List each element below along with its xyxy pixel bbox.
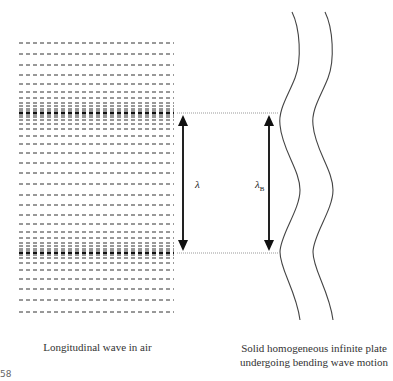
corner-page-number: 58 xyxy=(0,369,11,379)
plate-caption: Solid homogeneous infinite plate undergo… xyxy=(235,341,393,369)
plate-caption-line1: Solid homogeneous infinite plate xyxy=(235,341,393,355)
lambda-label: λ xyxy=(195,178,200,190)
air-caption-text: Longitudinal wave in air xyxy=(43,341,151,353)
lambda-arrow xyxy=(178,115,188,251)
longitudinal-wave-lines xyxy=(19,43,174,312)
lambda-symbol: λ xyxy=(195,178,200,190)
plate-surface-left xyxy=(280,12,300,320)
lambda-b-arrow xyxy=(264,115,274,251)
air-caption: Longitudinal wave in air xyxy=(20,340,175,354)
plate-caption-line2: undergoing bending wave motion xyxy=(235,355,393,369)
lambda-b-subscript: B xyxy=(260,185,265,193)
plate-surface-right xyxy=(313,12,333,320)
wave-diagram xyxy=(0,0,393,381)
lambda-b-label: λB xyxy=(255,178,264,193)
